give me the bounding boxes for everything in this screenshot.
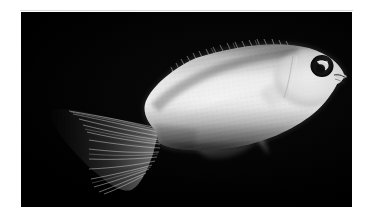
caudal-fin [50,109,160,194]
fish-illustration [21,12,352,207]
photo-top-rule [20,10,353,11]
page-root: pale whitish fish in left-facing profile… [0,0,372,220]
photograph [21,12,352,207]
